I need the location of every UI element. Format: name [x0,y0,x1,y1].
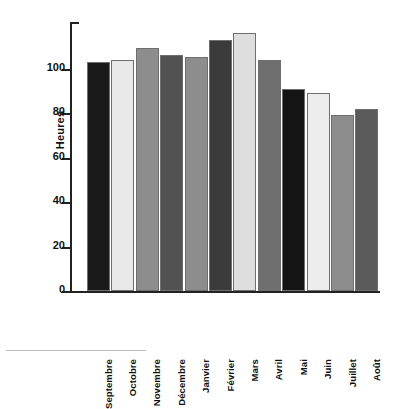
y-tick-label: 40 [53,194,65,206]
bar-series [70,22,380,293]
x-axis-labels: SeptembreOctobreNovembreDécembreJanvierF… [70,293,380,362]
bar-mars [233,33,256,291]
y-tick-label: 0 [59,283,65,295]
bar-janvier [185,57,208,291]
bar-novembre [136,48,159,291]
x-label-décembre: Décembre [176,359,187,406]
x-label-août: Août [371,359,382,381]
bar-décembre [160,55,183,291]
bar-juin [307,93,330,291]
x-label-février: Février [225,359,236,391]
plot-area: 020406080100 [70,22,380,293]
x-label-novembre: Novembre [151,359,162,406]
x-label-juillet: Juillet [347,359,358,387]
bar-février [209,40,232,291]
bar-juillet [331,115,354,291]
bottom-rule [6,350,146,351]
bar-octobre [111,60,134,291]
x-label-mai: Mai [298,359,309,375]
x-label-janvier: Janvier [200,359,211,393]
x-label-septembre: Septembre [103,359,114,409]
y-tick-label: 80 [53,105,65,117]
y-tick-label: 100 [47,61,65,73]
y-tick-label: 60 [53,150,65,162]
x-label-avril: Avril [273,359,284,380]
y-tick-label: 20 [53,239,65,251]
x-label-octobre: Octobre [127,359,138,396]
bar-août [355,109,378,291]
bar-avril [258,60,281,291]
x-label-juin: Juin [322,359,333,379]
bar-mai [282,89,305,291]
x-label-mars: Mars [249,359,260,382]
bar-septembre [87,62,110,291]
